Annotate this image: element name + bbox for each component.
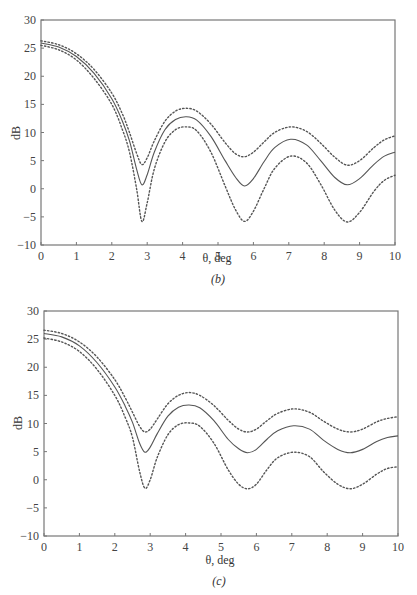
x-tick-label: 8 [321,249,327,263]
y-tick-label: 0 [33,473,39,487]
x-tick-label: 8 [324,540,330,554]
y-tick-label: −5 [23,210,36,224]
y-tick-label: 5 [33,445,39,459]
x-tick-label: 1 [73,249,79,263]
chart-panel-b: 012345678910302520151050−5−10 θ, deg dB … [0,0,417,298]
bound-curve [41,45,395,222]
y-axis-label: dB [9,126,23,140]
x-tick-label: 2 [112,540,118,554]
y-tick-label: 25 [27,332,39,346]
x-tick-label: 3 [144,249,150,263]
x-tick-label: 5 [218,540,224,554]
y-axis-label: dB [11,416,25,430]
y-tick-label: 15 [27,388,39,402]
y-tick-label: 5 [30,154,36,168]
y-tick-label: 25 [24,41,36,55]
x-tick-label: 9 [357,249,363,263]
bound-curve [44,338,398,489]
y-tick-label: 30 [27,304,39,318]
x-tick-label: 9 [360,540,366,554]
x-tick-label: 0 [38,249,44,263]
x-tick-label: 4 [183,540,189,554]
panel-label: (b) [211,272,225,286]
x-tick-label: 7 [286,249,292,263]
y-tick-label: 15 [24,97,36,111]
y-tick-label: 10 [24,126,36,140]
y-tick-label: 30 [24,13,36,27]
x-tick-label: 2 [109,249,115,263]
x-tick-label: 10 [389,249,401,263]
y-tick-label: 20 [24,69,36,83]
x-axis-label: θ, deg [205,553,234,567]
plot-svg-c: 012345678910302520151050−5−10 θ, deg dB … [0,298,417,595]
plot-svg-b: 012345678910302520151050−5−10 θ, deg dB … [0,0,417,298]
x-axis-label: θ, deg [202,251,231,265]
y-tick-label: −5 [26,501,39,515]
plot-area: 012345678910302520151050−5−10 [20,304,404,554]
y-tick-label: −10 [17,238,36,252]
x-tick-label: 0 [41,540,47,554]
x-tick-label: 7 [289,540,295,554]
bound-curve [44,330,398,432]
y-tick-label: −10 [20,529,39,543]
plot-frame [44,311,398,536]
nominal-curve [41,43,395,186]
y-tick-label: 0 [30,182,36,196]
chart-panel-c: 012345678910302520151050−5−10 θ, deg dB … [0,298,417,595]
y-tick-label: 20 [27,360,39,374]
nominal-curve [44,334,398,453]
x-tick-label: 6 [253,540,259,554]
x-tick-label: 4 [180,249,186,263]
x-tick-label: 3 [147,540,153,554]
bound-curve [41,41,395,165]
x-tick-label: 1 [76,540,82,554]
x-tick-label: 10 [392,540,404,554]
panel-label: (c) [212,574,225,588]
y-tick-label: 10 [27,417,39,431]
x-tick-label: 6 [250,249,256,263]
plot-area: 012345678910302520151050−5−10 [17,13,401,263]
